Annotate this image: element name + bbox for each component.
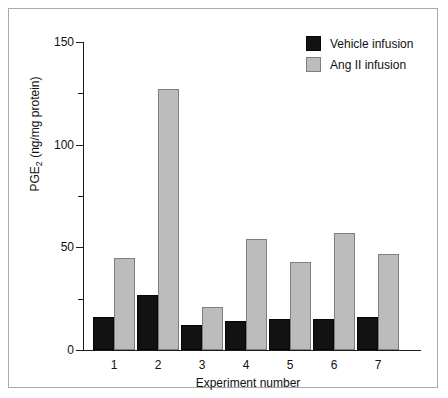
bar-group	[269, 42, 311, 350]
x-axis-tick-label: 4	[225, 358, 267, 372]
bar-angii-exp7	[378, 254, 399, 351]
x-axis-title: Experiment number	[83, 376, 413, 390]
bar-vehicle-exp2	[137, 295, 158, 350]
bar-group	[357, 42, 399, 350]
y-axis-tick-label: 100	[54, 138, 74, 152]
bar-vehicle-exp1	[93, 317, 114, 350]
bar-angii-exp4	[246, 239, 267, 350]
x-axis-tick-label: 1	[93, 358, 135, 372]
x-axis-tick-label: 2	[137, 358, 179, 372]
y-axis-tick-major	[76, 350, 83, 351]
y-axis-tick-major	[76, 145, 83, 146]
y-axis-tick-minor	[78, 196, 83, 197]
x-axis-line	[83, 350, 421, 351]
y-axis-tick-major	[76, 247, 83, 248]
y-axis-title-base: PGE	[28, 166, 42, 191]
x-axis-tick-label: 3	[181, 358, 223, 372]
bar-vehicle-exp3	[181, 325, 202, 350]
x-axis-tick-label: 6	[313, 358, 355, 372]
bar-group	[225, 42, 267, 350]
bar-group	[137, 42, 179, 350]
bar-group	[181, 42, 223, 350]
bar-angii-exp6	[334, 233, 355, 350]
plot-area: 050100150	[83, 42, 413, 350]
bar-vehicle-exp4	[225, 321, 246, 350]
y-axis-tick-label: 0	[67, 343, 74, 357]
bar-group	[313, 42, 355, 350]
y-axis-tick-minor	[78, 299, 83, 300]
x-axis-tick-label: 5	[269, 358, 311, 372]
x-axis-tick-label: 7	[357, 358, 399, 372]
y-axis-title-subscript: 2	[34, 161, 44, 166]
bar-group	[93, 42, 135, 350]
figure-root: Vehicle infusion Ang II infusion 0501001…	[0, 0, 448, 398]
bar-angii-exp3	[202, 307, 223, 350]
bar-vehicle-exp6	[313, 319, 334, 350]
y-axis-tick-label: 50	[61, 240, 74, 254]
y-axis-tick-minor	[78, 93, 83, 94]
bar-vehicle-exp7	[357, 317, 378, 350]
bar-vehicle-exp5	[269, 319, 290, 350]
y-axis-tick-major	[76, 42, 83, 43]
bar-angii-exp5	[290, 262, 311, 350]
y-axis-tick-label: 150	[54, 35, 74, 49]
bar-angii-exp1	[114, 258, 135, 350]
y-axis-title: PGE2 (ng/mg protein)	[28, 34, 42, 234]
bar-angii-exp2	[158, 89, 179, 350]
figure-border: Vehicle infusion Ang II infusion 0501001…	[8, 8, 438, 388]
y-axis-title-units: (ng/mg protein)	[28, 76, 42, 161]
